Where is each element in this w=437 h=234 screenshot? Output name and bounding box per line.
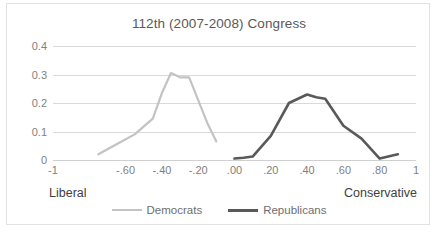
y-axis-tick-label: 0.4 [13, 40, 47, 52]
chart-legend: DemocratsRepublicans [7, 204, 431, 216]
x-axis-tick-label: .40 [299, 164, 314, 176]
x-axis-tick-label: -.60 [116, 164, 135, 176]
y-axis-tick-label: 0.3 [13, 69, 47, 81]
x-axis: -1-.60-.40-.20.00.20.40.60.801 [53, 164, 416, 182]
legend-label: Democrats [147, 204, 203, 216]
x-axis-tick-label: .60 [336, 164, 351, 176]
plot-area [53, 46, 416, 160]
axis-anchor-conservative: Conservative [344, 186, 417, 200]
x-axis-tick-label: -.20 [189, 164, 208, 176]
legend-item[interactable]: Republicans [228, 204, 326, 216]
chart-container: 112th (2007-2008) Congress 00.10.20.30.4… [6, 3, 430, 225]
x-axis-tick-label: -.40 [152, 164, 171, 176]
chart-title: 112th (2007-2008) Congress [7, 16, 431, 31]
x-axis-tick-label: .00 [227, 164, 242, 176]
legend-label: Republicans [263, 204, 326, 216]
y-axis-tick-label: 0 [13, 154, 47, 166]
axis-anchor-liberal: Liberal [49, 186, 87, 200]
gridline [53, 160, 416, 161]
x-axis-tick-label: .20 [263, 164, 278, 176]
series-layer [53, 46, 416, 160]
x-axis-tick-label: .80 [372, 164, 387, 176]
legend-swatch-icon [228, 209, 258, 212]
series-line-democrats [98, 73, 216, 154]
legend-swatch-icon [112, 209, 142, 211]
x-axis-tick-label: 1 [413, 164, 419, 176]
legend-item[interactable]: Democrats [112, 204, 203, 216]
series-line-republicans [235, 94, 398, 158]
y-axis-tick-label: 0.1 [13, 126, 47, 138]
y-axis-tick-label: 0.2 [13, 97, 47, 109]
x-axis-tick-label: -1 [48, 164, 58, 176]
y-axis: 00.10.20.30.4 [13, 46, 47, 160]
